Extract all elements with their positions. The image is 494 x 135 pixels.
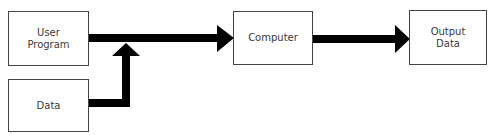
- user-program-label-line-2: Program: [27, 39, 69, 51]
- output-data-label-line-1: Output: [431, 26, 466, 38]
- arrow-computer-to-output: [313, 25, 410, 53]
- user-program-label-line-1: User: [27, 27, 69, 39]
- computer-box: Computer: [233, 11, 313, 65]
- data-box: Data: [8, 79, 89, 132]
- computer-label: Computer: [248, 32, 298, 44]
- arrow-data-to-merge: [89, 43, 140, 107]
- output-data-box: Output Data: [409, 10, 487, 65]
- arrow-program-to-computer: [89, 25, 234, 52]
- user-program-box: User Program: [8, 11, 89, 66]
- output-data-label-line-2: Data: [431, 38, 466, 50]
- data-label: Data: [37, 100, 61, 112]
